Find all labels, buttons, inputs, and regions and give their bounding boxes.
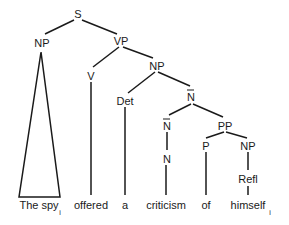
word-offered: offered <box>74 199 108 211</box>
index-subject: i <box>59 209 61 216</box>
word-criticism: criticism <box>146 199 186 211</box>
np-triangle <box>19 52 60 197</box>
syntax-tree: S NP VP V NP Det N N PP N P NP Refl The … <box>0 0 289 225</box>
edge-np-nbar <box>158 72 190 86</box>
node-p: P <box>202 140 209 152</box>
node-n: N <box>163 153 171 165</box>
edge-pp-p <box>206 132 224 138</box>
edge-np-det <box>128 72 155 93</box>
edge-s-np <box>45 20 74 34</box>
node-nbar-top: N <box>187 91 195 103</box>
node-refl: Refl <box>238 173 258 185</box>
edge-nbar-nbar <box>169 104 191 115</box>
word-of: of <box>201 199 211 211</box>
word-himself: himself <box>231 199 267 211</box>
index-reflexive: i <box>269 209 271 216</box>
node-s: S <box>74 8 81 20</box>
node-det: Det <box>116 95 133 107</box>
node-vp: VP <box>114 35 129 47</box>
edge-vp-np <box>123 47 153 58</box>
word-a: a <box>122 199 129 211</box>
edge-pp-np <box>226 132 247 138</box>
node-pp: PP <box>218 120 233 132</box>
edge-nbar-pp <box>193 104 223 117</box>
node-nbar-low: N <box>163 120 171 132</box>
node-np-subject: NP <box>34 37 49 49</box>
node-np-refl: NP <box>240 140 255 152</box>
edge-vp-v <box>93 47 119 67</box>
edge-s-vp <box>82 20 117 34</box>
word-the-spy: The spy <box>19 199 59 211</box>
node-v: V <box>87 70 95 82</box>
node-np-object: NP <box>149 60 164 72</box>
